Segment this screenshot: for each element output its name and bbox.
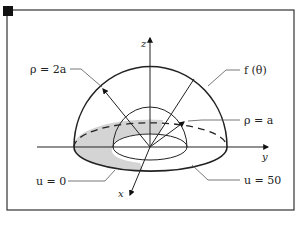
hemisphere-diagram: z y x ρ = 2a f (θ) ρ = a u = 0 u = 50 bbox=[0, 0, 301, 227]
f-theta-label: f (θ) bbox=[244, 64, 267, 77]
outer-radius-label: ρ = 2a bbox=[30, 63, 67, 76]
y-axis-label: y bbox=[261, 151, 268, 162]
leader-outer-radius bbox=[70, 69, 102, 87]
u50-label: u = 50 bbox=[244, 174, 281, 187]
leader-u50 bbox=[192, 165, 240, 180]
x-axis-label: x bbox=[118, 188, 124, 199]
leader-inner-radius bbox=[188, 120, 240, 121]
inner-radius-label: ρ = a bbox=[244, 114, 274, 127]
leader-u0 bbox=[68, 170, 115, 181]
diagram-frame: z y x ρ = 2a f (θ) ρ = a u = 0 u = 50 bbox=[0, 0, 301, 227]
u0-label: u = 0 bbox=[36, 175, 66, 188]
corner-marker bbox=[3, 6, 13, 16]
leader-f-theta bbox=[208, 70, 240, 86]
z-axis-label: z bbox=[140, 38, 147, 49]
